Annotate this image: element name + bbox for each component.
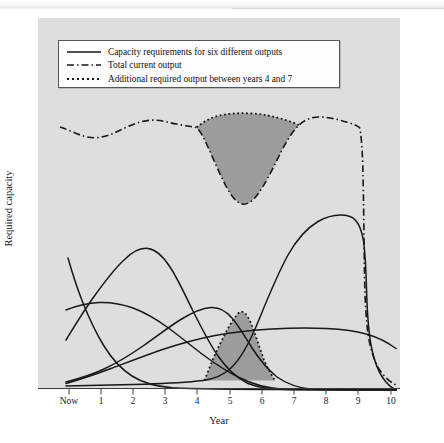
x-tick-label-now: Now	[60, 396, 78, 406]
x-tick-label-4: 4	[195, 396, 200, 406]
x-tick-label-6: 6	[260, 396, 265, 406]
legend-item-additional-required-output: Additional required output between years…	[65, 72, 333, 85]
legend-label-total-current-output: Total current output	[108, 59, 182, 71]
chart-legend: Capacity requirements for six different …	[58, 40, 340, 88]
chart-figure: Now 1 2 3 4 5 6 7 8 9 10 Year Required c…	[0, 0, 444, 443]
x-tick-label-7: 7	[292, 396, 297, 406]
x-tick-label-2: 2	[131, 396, 136, 406]
legend-item-capacity-requirements: Capacity requirements for six different …	[65, 45, 333, 58]
x-tick-label-9: 9	[356, 396, 361, 406]
x-axis-title: Year	[209, 415, 228, 426]
x-tick-label-5: 5	[228, 396, 233, 406]
legend-label-capacity-requirements: Capacity requirements for six different …	[108, 46, 282, 58]
x-tick-label-8: 8	[324, 396, 329, 406]
x-tick-label-10: 10	[386, 396, 396, 406]
legend-label-additional-required-output: Additional required output between years…	[108, 73, 292, 85]
x-tick-label-1: 1	[99, 396, 104, 406]
shaded-region-lower	[205, 312, 276, 381]
x-tick-label-3: 3	[163, 396, 168, 406]
shaded-region-upper	[197, 113, 300, 204]
legend-item-total-current-output: Total current output	[65, 59, 333, 72]
y-axis-title: Required capacity	[3, 170, 14, 246]
legend-swatch-solid-icon	[65, 46, 103, 58]
legend-swatch-dashdot-icon	[65, 59, 103, 71]
legend-swatch-dotted-icon	[65, 73, 103, 85]
